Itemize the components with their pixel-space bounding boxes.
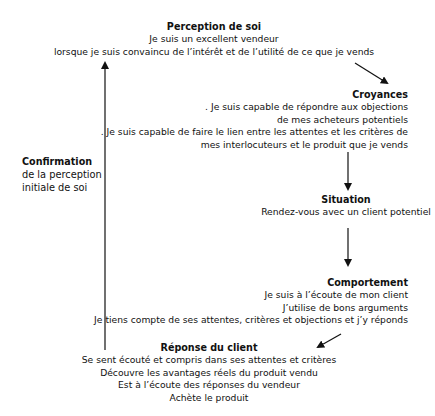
reponse-line: Découvre les avantages réels du produit …: [82, 367, 336, 380]
croyances-line: mes interlocuteurs et le produit que je …: [101, 139, 408, 152]
croyances-line: . Je suis capable de répondre aux object…: [101, 101, 408, 114]
perception-line: lorsque je suis convaincu de l’intérêt e…: [54, 46, 374, 59]
reponse-line: Est à l’écoute des réponses du vendeur: [82, 379, 336, 392]
reponse-line: Se sent écouté et compris dans ses atten…: [82, 354, 336, 367]
comportement-title: Comportement: [94, 276, 408, 289]
confirmation-title: Confirmation: [22, 155, 102, 168]
perception-block: Perception de soi Je suis un excellent v…: [54, 20, 374, 58]
croyances-line: . Je suis capable de faire le lien entre…: [101, 126, 408, 139]
croyances-line: de mes acheteurs potentiels: [101, 114, 408, 127]
comportement-line: Je suis à l’écoute de mon client: [94, 289, 408, 302]
comportement-block: Comportement Je suis à l’écoute de mon c…: [94, 276, 408, 327]
situation-line: Rendez-vous avec un client potentiel: [261, 206, 431, 219]
situation-title: Situation: [261, 193, 431, 206]
situation-block: Situation Rendez-vous avec un client pot…: [261, 193, 431, 219]
perception-title: Perception de soi: [54, 20, 374, 33]
confirmation-line: initiale de soi: [22, 181, 102, 194]
arrow-perception-to-croyances: [355, 63, 387, 83]
confirmation-block: Confirmation de la perception initiale d…: [22, 155, 102, 194]
croyances-block: Croyances . Je suis capable de répondre …: [101, 88, 408, 151]
confirmation-line: de la perception: [22, 168, 102, 181]
comportement-line: Je tiens compte de ses attentes, critère…: [94, 314, 408, 327]
perception-line: Je suis un excellent vendeur: [54, 33, 374, 46]
reponse-block: Réponse du client Se sent écouté et comp…: [82, 341, 336, 404]
reponse-line: Achète le produit: [82, 392, 336, 405]
comportement-line: J’utilise de bons arguments: [94, 302, 408, 315]
reponse-title: Réponse du client: [82, 341, 336, 354]
croyances-title: Croyances: [101, 88, 408, 101]
